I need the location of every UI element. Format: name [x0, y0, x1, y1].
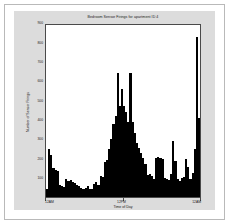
histogram-bar [198, 118, 200, 197]
y-axis-tick-labels: 100200300400500600700800900 [24, 24, 43, 198]
y-axis-tick-label: 500 [37, 100, 43, 104]
figure-canvas: Bedroom Sensor Firings for apartment ID … [14, 11, 215, 210]
screenshot-page: Bedroom Sensor Firings for apartment ID … [0, 0, 229, 224]
x-axis-tick-label: 12AM [192, 200, 201, 204]
x-axis-tick-label: 12PM [117, 200, 126, 204]
matlab-figure: Bedroom Sensor Firings for apartment ID … [14, 11, 215, 210]
x-axis-label: Time of Day [45, 205, 201, 209]
y-axis-tick-label: 100 [37, 177, 43, 181]
y-axis-tick-label: 900 [37, 22, 43, 26]
histogram-bars [46, 25, 200, 197]
plot-area [46, 25, 200, 197]
y-axis-tick-label: 200 [37, 158, 43, 162]
y-axis-tick-label: 600 [37, 80, 43, 84]
x-axis-tick-label: 12AM [45, 200, 54, 204]
y-axis-tick-label: 700 [37, 61, 43, 65]
y-axis-tick-label: 300 [37, 138, 43, 142]
chart-title: Bedroom Sensor Firings for apartment ID … [45, 15, 201, 20]
plot-axes [45, 24, 201, 198]
y-axis-tick-label: 800 [37, 42, 43, 46]
y-axis-tick-label: 400 [37, 119, 43, 123]
